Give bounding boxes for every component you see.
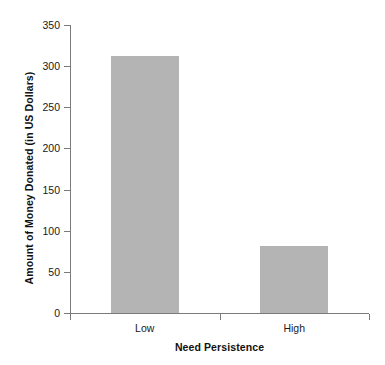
bar-low xyxy=(111,56,179,313)
y-tick-mark xyxy=(64,148,70,149)
y-axis-line xyxy=(70,25,71,314)
x-axis-title: Need Persistence xyxy=(70,341,369,353)
x-tick-label: High xyxy=(234,322,354,334)
y-tick-label: 50 xyxy=(0,266,60,278)
x-tick-mark xyxy=(369,314,370,320)
x-tick-mark xyxy=(70,314,71,320)
y-tick-mark xyxy=(64,107,70,108)
x-tick-mark xyxy=(220,314,221,320)
y-tick-mark xyxy=(64,231,70,232)
y-tick-mark xyxy=(64,272,70,273)
y-tick-label: 200 xyxy=(0,142,60,154)
y-tick-mark xyxy=(64,25,70,26)
bar-chart: Amount of Money Donated (in US Dollars) … xyxy=(0,0,385,365)
y-tick-label: 150 xyxy=(0,184,60,196)
y-tick-label: 100 xyxy=(0,225,60,237)
x-tick-label: Low xyxy=(85,322,205,334)
y-tick-label: 250 xyxy=(0,101,60,113)
y-axis-title: Amount of Money Donated (in US Dollars) xyxy=(23,33,35,323)
y-tick-mark xyxy=(64,190,70,191)
y-tick-label: 0 xyxy=(0,307,60,319)
y-tick-mark xyxy=(64,66,70,67)
y-tick-label: 300 xyxy=(0,60,60,72)
y-tick-label: 350 xyxy=(0,19,60,31)
bar-high xyxy=(260,246,328,313)
